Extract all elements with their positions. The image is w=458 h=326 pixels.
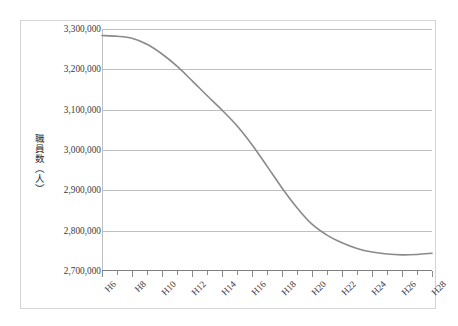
- x-tick-label: H22: [340, 279, 358, 297]
- y-tick-label: 3,200,000: [35, 64, 101, 74]
- x-tick: [147, 271, 148, 275]
- x-tick-label: H8: [133, 279, 148, 294]
- x-tick: [417, 271, 418, 275]
- x-tick: [177, 271, 178, 275]
- x-tick-label: H28: [430, 279, 448, 297]
- x-tick: [117, 271, 118, 275]
- x-axis-tick-labels: H6H8H10H12H14H16H18H20H22H24H26H28: [102, 277, 447, 311]
- x-tick-label: H12: [190, 279, 208, 297]
- x-tick-label: H16: [250, 279, 268, 297]
- x-tick-label: H18: [280, 279, 298, 297]
- plot-area: [102, 29, 432, 271]
- x-tick: [327, 271, 328, 275]
- x-tick-label: H14: [220, 279, 238, 297]
- x-tick-label: H6: [103, 279, 118, 294]
- chart-figure: 職員数（人） 3,300,0003,200,0003,100,0003,000,…: [20, 20, 436, 309]
- y-tick-label: 2,900,000: [35, 185, 101, 195]
- y-tick-label: 2,700,000: [35, 266, 101, 276]
- x-tick: [357, 271, 358, 275]
- y-tick-label: 3,300,000: [35, 24, 101, 34]
- y-axis-tick-labels: 3,300,0003,200,0003,100,0003,000,0002,90…: [35, 21, 101, 271]
- x-tick-label: H24: [370, 279, 388, 297]
- x-tick: [297, 271, 298, 275]
- y-tick-label: 3,000,000: [35, 145, 101, 155]
- x-tick: [237, 271, 238, 275]
- y-tick-label: 2,800,000: [35, 226, 101, 236]
- y-tick-label: 3,100,000: [35, 105, 101, 115]
- x-tick: [267, 271, 268, 275]
- x-tick: [207, 271, 208, 275]
- series-path: [102, 35, 432, 254]
- x-tick-label: H26: [400, 279, 418, 297]
- x-tick-label: H20: [310, 279, 328, 297]
- x-tick: [387, 271, 388, 275]
- x-tick-label: H10: [160, 279, 178, 297]
- series-line-staff-count: [102, 29, 432, 271]
